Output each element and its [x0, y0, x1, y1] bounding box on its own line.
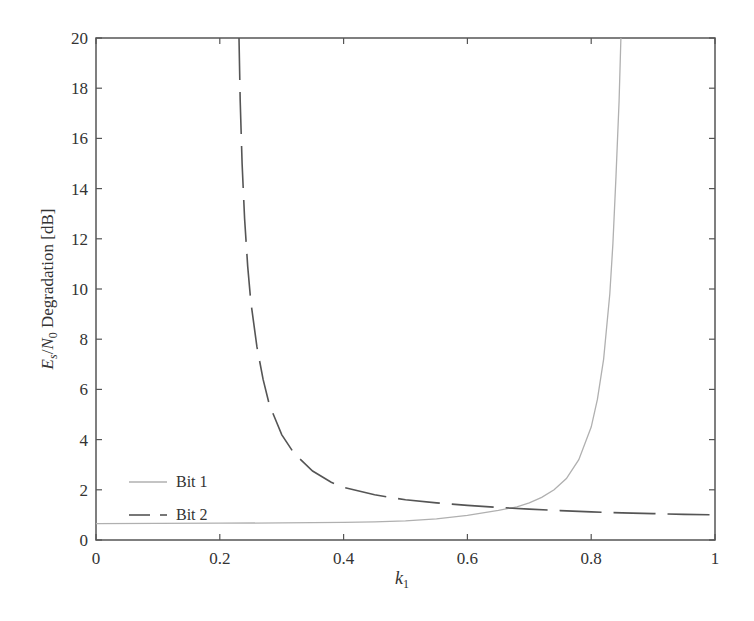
legend-label-bit2: Bit 2	[176, 506, 208, 523]
y-tick-label: 10	[71, 280, 88, 299]
series-line-bit-2	[239, 38, 715, 515]
y-tick-label: 14	[71, 180, 89, 199]
y-label-rest: Degradation [dB]	[38, 209, 57, 333]
y-tick-label: 6	[80, 380, 89, 399]
series-line-bit-1	[96, 38, 621, 524]
x-tick-label: 0.2	[209, 549, 230, 568]
y-axis-label: Es/N0 Degradation [dB]	[38, 209, 60, 371]
plot-area	[96, 38, 715, 540]
x-axis-label-sub: 1	[403, 577, 409, 591]
y-tick-label: 16	[71, 129, 88, 148]
y-tick-label: 12	[71, 230, 88, 249]
y-tick-label: 20	[71, 29, 88, 48]
chart: 00.20.40.60.81 02468101214161820 Bit 1 B…	[0, 0, 754, 621]
y-tick-label: 18	[71, 79, 88, 98]
y-tick-label: 2	[80, 481, 89, 500]
y-tick-label: 4	[80, 431, 89, 450]
plot-frame	[96, 38, 715, 540]
x-tick-label: 0.6	[457, 549, 478, 568]
axis-ticks	[96, 38, 715, 540]
x-axis-label: k1	[395, 568, 409, 591]
y-label-e: E	[38, 358, 57, 370]
x-tick-label: 1	[711, 549, 720, 568]
legend-label-bit1: Bit 1	[176, 473, 208, 490]
x-tick-label: 0	[92, 549, 101, 568]
x-tick-label: 0.8	[581, 549, 602, 568]
series-lines	[96, 38, 715, 524]
y-tick-labels: 02468101214161820	[71, 29, 89, 550]
y-tick-label: 8	[80, 330, 89, 349]
y-tick-label: 0	[80, 531, 89, 550]
legend: Bit 1 Bit 2	[129, 473, 208, 523]
x-tick-labels: 00.20.40.60.81	[92, 549, 720, 568]
x-tick-label: 0.4	[333, 549, 355, 568]
